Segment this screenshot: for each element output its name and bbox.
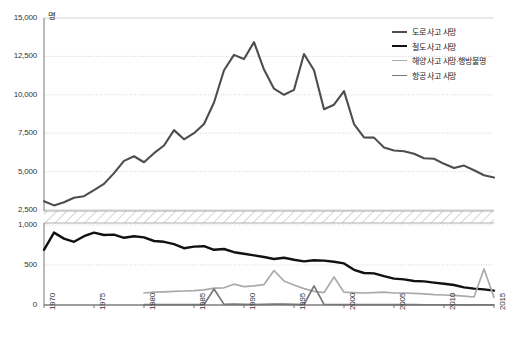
legend-swatch-1 <box>392 45 407 47</box>
y-tick-upper-15000: 15,000 <box>0 13 37 22</box>
y-tick-lower-500: 500 <box>0 260 37 269</box>
legend-label-0: 도로 사고 사망 <box>412 26 456 37</box>
x-tick-1975: 1975 <box>98 293 107 310</box>
y-tick-lower-0: 0 <box>0 300 37 309</box>
legend-item-0[interactable]: 도로 사고 사망 <box>392 26 485 37</box>
legend-swatch-3 <box>392 75 407 76</box>
x-tick-1985: 1985 <box>198 293 207 310</box>
x-tick-1970: 1970 <box>48 293 57 310</box>
legend-label-3: 항공 사고 사망 <box>412 70 456 81</box>
legend-swatch-2 <box>392 60 407 61</box>
y-tick-upper-7500: 7,500 <box>0 128 37 137</box>
x-tick-1980: 1980 <box>148 293 157 310</box>
legend-item-1[interactable]: 철도 사고 사망 <box>392 41 485 52</box>
legend-item-3[interactable]: 항공 사고 사망 <box>392 70 485 81</box>
y-tick-upper-10000: 10,000 <box>0 90 37 99</box>
x-tick-2000: 2000 <box>348 293 357 310</box>
y-axis-unit-label: 명 <box>48 9 56 21</box>
legend-label-2: 해양 사고 사망·행방불명 <box>412 55 485 66</box>
chart-legend: 도로 사고 사망철도 사고 사망해양 사고 사망·행방불명항공 사고 사망 <box>392 26 485 81</box>
x-tick-2015: 2015 <box>498 293 506 310</box>
y-tick-upper-5000: 5,000 <box>0 167 37 176</box>
y-tick-lower-1000: 1,000 <box>0 220 37 229</box>
x-tick-1995: 1995 <box>298 293 307 310</box>
y-tick-upper-2500: 2,500 <box>0 205 37 214</box>
x-tick-2005: 2005 <box>398 293 407 310</box>
legend-label-1: 철도 사고 사망 <box>412 41 456 52</box>
x-tick-1990: 1990 <box>248 293 257 310</box>
x-tick-2010: 2010 <box>448 293 457 310</box>
y-tick-upper-12500: 12,500 <box>0 51 37 60</box>
legend-item-2[interactable]: 해양 사고 사망·행방불명 <box>392 55 485 66</box>
legend-swatch-0 <box>392 31 407 33</box>
chart-container: 명 2,5005,0007,50010,00012,50015,00005001… <box>0 0 506 353</box>
